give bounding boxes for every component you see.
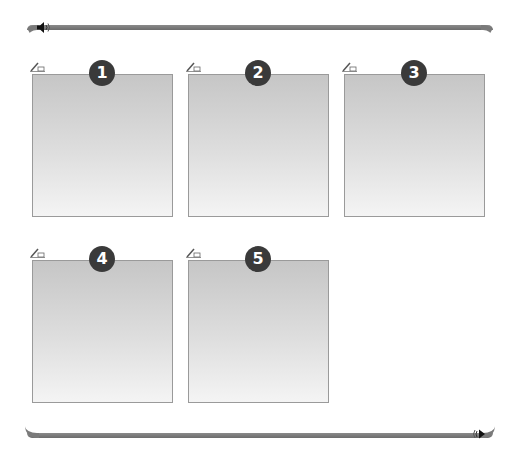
panel-4[interactable] bbox=[32, 260, 173, 403]
number-badge: 3 bbox=[401, 60, 427, 86]
number-badge: 5 bbox=[245, 246, 271, 272]
panel-2[interactable] bbox=[188, 74, 329, 217]
number-badge: 1 bbox=[89, 60, 115, 86]
number-badge: 4 bbox=[89, 246, 115, 272]
pencil-note-icon[interactable] bbox=[342, 62, 358, 72]
play-next-icon[interactable] bbox=[472, 428, 486, 440]
pencil-note-icon[interactable] bbox=[186, 248, 202, 258]
pencil-note-icon[interactable] bbox=[186, 62, 202, 72]
panel-5[interactable] bbox=[188, 260, 329, 403]
bottom-bar bbox=[27, 433, 493, 438]
pencil-note-icon[interactable] bbox=[30, 62, 46, 72]
pencil-note-icon[interactable] bbox=[30, 248, 46, 258]
top-bar bbox=[27, 25, 493, 30]
number-badge: 2 bbox=[245, 60, 271, 86]
speaker-icon[interactable] bbox=[37, 22, 51, 33]
panel-3[interactable] bbox=[344, 74, 485, 217]
panel-1[interactable] bbox=[32, 74, 173, 217]
